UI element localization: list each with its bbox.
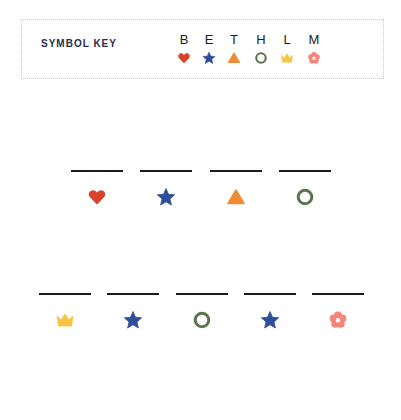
key-entry-l: L xyxy=(275,32,299,65)
triangle-icon xyxy=(226,187,246,207)
answer-blank[interactable] xyxy=(176,293,228,295)
word2-slot-5[interactable] xyxy=(312,293,364,330)
answer-blank[interactable] xyxy=(210,170,262,172)
key-letter: B xyxy=(172,32,196,48)
answer-blank[interactable] xyxy=(312,293,364,295)
word2-slot-2[interactable] xyxy=(107,293,159,330)
triangle-icon xyxy=(227,51,241,65)
heart-icon xyxy=(177,51,191,65)
circle-icon xyxy=(254,51,268,65)
answer-blank[interactable] xyxy=(140,170,192,172)
symbol-key-title: SYMBOL KEY xyxy=(41,38,117,49)
flower-icon xyxy=(307,51,321,65)
crown-icon xyxy=(280,51,294,65)
symbol-key-panel: SYMBOL KEY B E T H L M xyxy=(21,19,384,79)
circle-icon xyxy=(295,187,315,207)
heart-icon xyxy=(87,187,107,207)
answer-blank[interactable] xyxy=(279,170,331,172)
word2-slot-4[interactable] xyxy=(244,293,296,330)
answer-blank[interactable] xyxy=(244,293,296,295)
answer-blank[interactable] xyxy=(39,293,91,295)
answer-blank[interactable] xyxy=(107,293,159,295)
circle-icon xyxy=(192,310,212,330)
key-letter: E xyxy=(197,32,221,48)
star-icon xyxy=(260,310,280,330)
star-icon xyxy=(202,51,216,65)
word2-slot-1[interactable] xyxy=(39,293,91,330)
star-icon xyxy=(156,187,176,207)
key-letter: M xyxy=(302,32,326,48)
key-letter: T xyxy=(222,32,246,48)
word2-slot-3[interactable] xyxy=(176,293,228,330)
word1-slot-4[interactable] xyxy=(279,170,331,207)
crown-icon xyxy=(55,310,75,330)
key-entry-m: M xyxy=(302,32,326,65)
word1-slot-1[interactable] xyxy=(71,170,123,207)
star-icon xyxy=(123,310,143,330)
key-letter: H xyxy=(249,32,273,48)
key-entry-t: T xyxy=(222,32,246,65)
answer-blank[interactable] xyxy=(71,170,123,172)
key-letter: L xyxy=(275,32,299,48)
key-entry-e: E xyxy=(197,32,221,65)
key-entry-h: H xyxy=(249,32,273,65)
flower-icon xyxy=(328,310,348,330)
word1-slot-3[interactable] xyxy=(210,170,262,207)
word1-slot-2[interactable] xyxy=(140,170,192,207)
key-entry-b: B xyxy=(172,32,196,65)
